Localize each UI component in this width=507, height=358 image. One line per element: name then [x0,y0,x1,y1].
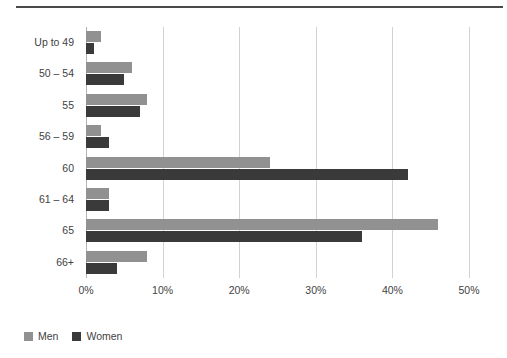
x-axis-label: 30% [305,284,326,296]
y-axis-category-labels: Up to 4950 – 545556 – 596061 – 646566+ [0,27,80,278]
bar-group [86,247,469,278]
bar-women[interactable] [86,43,94,54]
men-swatch-icon [24,332,33,341]
bar-women[interactable] [86,169,408,180]
bar-men[interactable] [86,219,438,230]
y-axis-label: 55 [0,90,80,121]
x-axis-label: 50% [458,284,479,296]
plot-area [86,27,469,278]
x-axis-label: 10% [152,284,173,296]
bar-women[interactable] [86,263,117,274]
x-axis-label: 40% [382,284,403,296]
legend-item-women[interactable]: Women [72,330,122,342]
y-axis-label: 60 [0,153,80,184]
bar-women[interactable] [86,74,124,85]
bar-women[interactable] [86,200,109,211]
bar-men[interactable] [86,251,147,262]
chart-legend: MenWomen [24,330,122,342]
bar-men[interactable] [86,188,109,199]
bar-group [86,27,469,58]
bar-women[interactable] [86,137,109,148]
x-axis-tick-labels: 0%10%20%30%40%50% [86,284,469,300]
x-axis-label: 20% [229,284,250,296]
y-axis-label: 50 – 54 [0,58,80,89]
bar-women[interactable] [86,106,140,117]
bar-men[interactable] [86,31,101,42]
bar-group [86,184,469,215]
bar-group [86,90,469,121]
top-divider-rule [16,6,503,8]
x-axis-label: 0% [78,284,93,296]
bar-chart-figure: Up to 4950 – 545556 – 596061 – 646566+ 0… [0,0,507,358]
bars-layer [86,27,469,278]
bar-group [86,153,469,184]
bar-men[interactable] [86,125,101,136]
legend-item-men[interactable]: Men [24,330,58,342]
y-axis-label: 66+ [0,247,80,278]
y-axis-label: 56 – 59 [0,121,80,152]
legend-label: Men [38,330,58,342]
bar-men[interactable] [86,62,132,73]
women-swatch-icon [72,332,81,341]
y-axis-label: 61 – 64 [0,184,80,215]
bar-group [86,121,469,152]
bar-women[interactable] [86,231,362,242]
y-axis-label: Up to 49 [0,27,80,58]
legend-label: Women [86,330,122,342]
bar-men[interactable] [86,157,270,168]
bar-group [86,215,469,246]
gridline-50 [469,27,470,278]
y-axis-label: 65 [0,215,80,246]
bar-men[interactable] [86,94,147,105]
bar-group [86,58,469,89]
